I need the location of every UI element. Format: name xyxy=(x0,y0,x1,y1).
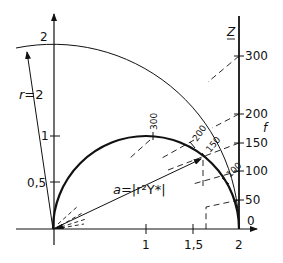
left-tick-label-2: 2 xyxy=(40,30,48,44)
semicircle-label-100: 100 xyxy=(224,160,243,179)
radius-label: r=2 xyxy=(19,87,44,102)
left-tick-label-1: 1 xyxy=(41,129,49,143)
semicircle-label-300: 300 xyxy=(149,113,159,130)
right-tick-label-0: 0 xyxy=(247,214,255,228)
diagram-canvas: 2 1 0,5 1 1,5 2 0 50 100 150 200 300 Z f… xyxy=(0,0,283,263)
bottom-tick-label-2: 2 xyxy=(235,238,243,252)
bottom-tick-label-1: 1 xyxy=(142,238,150,252)
vector-a-label: a=|r²Y*| xyxy=(113,182,166,197)
semicircle-label-150: 150 xyxy=(204,134,223,154)
semicircle-label-200: 200 xyxy=(190,123,208,143)
polar-diagram: 2 1 0,5 1 1,5 2 0 50 100 150 200 300 Z f… xyxy=(0,0,283,263)
z-axis-label: Z xyxy=(226,25,236,39)
right-tick-label-200: 200 xyxy=(245,107,268,121)
right-tick-label-300: 300 xyxy=(245,49,268,63)
right-tick-label-50: 50 xyxy=(245,193,260,207)
dashed-construction-lines xyxy=(130,56,239,229)
radius-arrow xyxy=(27,52,53,229)
left-axis-ticks xyxy=(50,136,60,182)
right-tick-label-100: 100 xyxy=(245,164,268,178)
f-axis-label: f xyxy=(263,121,269,135)
right-tick-label-150: 150 xyxy=(245,136,268,150)
left-tick-label-0-5: 0,5 xyxy=(27,176,46,190)
bottom-tick-label-1-5: 1,5 xyxy=(184,238,203,252)
radius-2-arc xyxy=(16,44,239,229)
